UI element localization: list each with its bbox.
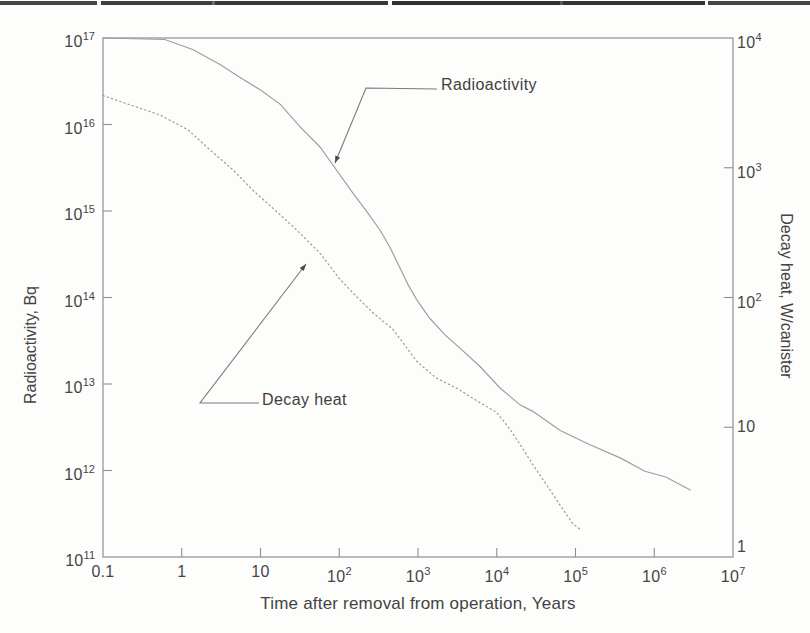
x-tick-label: 107 bbox=[698, 562, 768, 587]
plot-border bbox=[103, 38, 733, 557]
radioactivity-curve-label: Radioactivity bbox=[441, 76, 537, 94]
radioactivity-callout-arrowhead bbox=[335, 156, 340, 164]
x-tick-label: 102 bbox=[304, 562, 374, 587]
x-tick-label: 105 bbox=[541, 562, 611, 587]
left-tick-label: 1012 bbox=[18, 460, 95, 485]
figure: 0.11101021031041051061071017101610151014… bbox=[0, 0, 810, 633]
decay-heat-curve-label: Decay heat bbox=[262, 391, 347, 409]
x-tick-label: 104 bbox=[462, 562, 532, 587]
x-tick-label: 1 bbox=[147, 562, 217, 582]
right-axis-title: Decay heat, W/canister bbox=[777, 213, 795, 378]
right-tick-label: 1 bbox=[737, 537, 797, 557]
decay-heat-curve bbox=[103, 96, 582, 531]
right-tick-label: 104 bbox=[737, 28, 797, 53]
right-tick-label: 10 bbox=[737, 417, 797, 437]
x-tick-label: 103 bbox=[383, 562, 453, 587]
left-tick-label: 1011 bbox=[18, 546, 95, 571]
left-axis-title: Radioactivity, Bq bbox=[22, 286, 40, 404]
radioactivity-curve bbox=[103, 38, 691, 490]
x-tick-label: 106 bbox=[619, 562, 689, 587]
right-tick-label: 103 bbox=[737, 158, 797, 183]
x-tick-label: 10 bbox=[226, 562, 296, 582]
left-tick-label: 1016 bbox=[18, 114, 95, 139]
x-axis-title: Time after removal from operation, Years bbox=[103, 594, 733, 614]
chart-canvas bbox=[0, 0, 810, 633]
radioactivity-callout-leader bbox=[335, 88, 437, 163]
left-tick-label: 1017 bbox=[18, 27, 95, 52]
decay-heat-callout-leader bbox=[200, 264, 306, 403]
left-tick-label: 1015 bbox=[18, 200, 95, 225]
decay-heat-callout-arrowhead bbox=[300, 264, 306, 271]
